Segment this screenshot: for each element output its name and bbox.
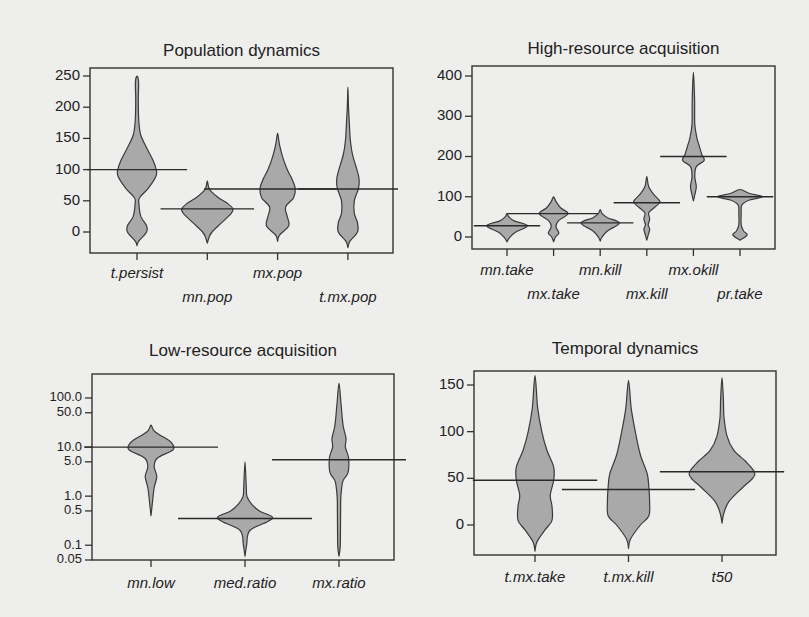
y-tick-label: 0 bbox=[454, 227, 462, 244]
x-tick-label-t-mx-take: t.mx.take bbox=[505, 568, 566, 585]
x-tick-label-t-mx-pop: t.mx.pop bbox=[319, 288, 377, 305]
panel-temporal-dynamics: Temporal dynamics050100150t.mx.taket.mx.… bbox=[439, 339, 784, 585]
y-tick-label: 0 bbox=[456, 515, 464, 532]
x-tick-label-t-mx-kill: t.mx.kill bbox=[604, 568, 655, 585]
y-tick-label: 200 bbox=[437, 146, 462, 163]
x-tick-label-pr-take: pr.take bbox=[716, 285, 762, 302]
x-tick-label-mx-okill: mx.okill bbox=[668, 261, 719, 278]
x-tick-label-mx-ratio: mx.ratio bbox=[312, 574, 365, 591]
x-tick-label-mx-take: mx.take bbox=[527, 285, 580, 302]
x-tick-label-mn-low: mn.low bbox=[127, 574, 176, 591]
violin-t-persist bbox=[117, 76, 157, 246]
y-tick-label: 100 bbox=[439, 422, 464, 439]
y-tick-label: 250 bbox=[55, 66, 80, 83]
x-tick-label-mn-take: mn.take bbox=[480, 261, 533, 278]
violin-mx-ratio bbox=[329, 383, 349, 556]
panel-title: Population dynamics bbox=[163, 41, 320, 60]
x-tick-label-mn-pop: mn.pop bbox=[182, 288, 232, 305]
violin-mx-take bbox=[539, 197, 568, 242]
y-tick-label: 300 bbox=[437, 106, 462, 123]
violin-med-ratio bbox=[217, 462, 272, 556]
panel-title: Low-resource acquisition bbox=[149, 341, 337, 360]
panel-high-resource-acquisition: High-resource acquisition0100200300400mn… bbox=[437, 39, 775, 302]
y-tick-label: 5.0 bbox=[64, 453, 82, 468]
y-tick-label: 10.0 bbox=[57, 439, 82, 454]
y-tick-label: 0.05 bbox=[57, 551, 82, 566]
panel-title: Temporal dynamics bbox=[552, 339, 698, 358]
violin-mx-okill bbox=[682, 72, 704, 201]
violin-mn-pop bbox=[181, 181, 233, 243]
x-tick-label-t50: t50 bbox=[712, 568, 734, 585]
y-tick-label: 0.5 bbox=[64, 502, 82, 517]
y-tick-label: 100.0 bbox=[49, 389, 82, 404]
x-tick-label-mx-pop: mx.pop bbox=[253, 264, 302, 281]
y-tick-label: 50 bbox=[63, 191, 80, 208]
panel-title: High-resource acquisition bbox=[528, 39, 720, 58]
y-tick-label: 150 bbox=[55, 128, 80, 145]
y-tick-label: 150 bbox=[439, 375, 464, 392]
violin-t-mx-take bbox=[516, 376, 555, 551]
violin-mn-take bbox=[487, 214, 528, 242]
y-tick-label: 50.0 bbox=[57, 404, 82, 419]
violin-mx-kill bbox=[634, 177, 660, 241]
y-tick-label: 100 bbox=[55, 160, 80, 177]
panel-population-dynamics: Population dynamics050100150200250t.pers… bbox=[55, 41, 398, 305]
y-tick-label: 100 bbox=[437, 187, 462, 204]
y-tick-label: 1.0 bbox=[64, 488, 82, 503]
x-tick-label-mx-kill: mx.kill bbox=[626, 285, 668, 302]
y-tick-label: 400 bbox=[437, 66, 462, 83]
x-tick-label-t-persist: t.persist bbox=[111, 264, 164, 281]
y-tick-label: 200 bbox=[55, 97, 80, 114]
y-tick-label: 0.1 bbox=[64, 537, 82, 552]
x-tick-label-mn-kill: mn.kill bbox=[579, 261, 622, 278]
violin-mx-pop bbox=[260, 133, 295, 241]
y-tick-label: 50 bbox=[447, 468, 464, 485]
y-tick-label: 0 bbox=[72, 222, 80, 239]
panel-low-resource-acquisition: Low-resource acquisition0.050.10.51.05.0… bbox=[49, 341, 406, 591]
violin-mn-low bbox=[128, 425, 174, 516]
figure: Population dynamics050100150200250t.pers… bbox=[0, 0, 809, 617]
violin-t-mx-kill bbox=[607, 380, 650, 548]
violin-t-mx-pop bbox=[337, 87, 360, 247]
violin-t50 bbox=[689, 378, 755, 524]
x-tick-label-med-ratio: med.ratio bbox=[214, 574, 277, 591]
